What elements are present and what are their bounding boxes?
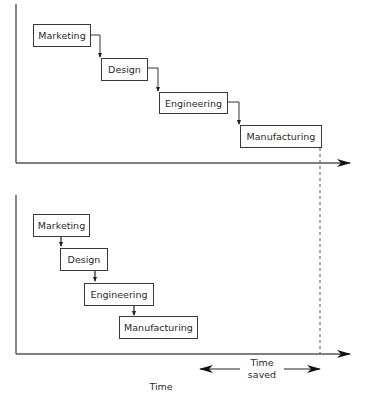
bottom-stage-manufacturing: Manufacturing (119, 316, 198, 339)
time-saved-line2: saved (240, 369, 284, 381)
time-saved-label: Time saved (240, 357, 284, 381)
bottom-stage-marketing: Marketing (33, 214, 90, 237)
bottom-stage-engineering: Engineering (84, 283, 154, 306)
diagram-lines (0, 0, 370, 399)
top-stage-manufacturing: Manufacturing (240, 125, 322, 148)
bottom-stage-design: Design (60, 248, 108, 271)
time-saved-line1: Time (240, 357, 284, 369)
top-stage-engineering: Engineering (159, 92, 228, 114)
top-stage-marketing: Marketing (33, 24, 91, 47)
top-stage-design: Design (101, 58, 148, 81)
x-axis-label: Time (148, 381, 174, 393)
